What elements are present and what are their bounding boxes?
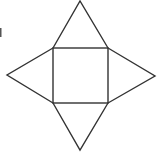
right-triangle-face bbox=[108, 48, 155, 103]
pyramid-net-diagram bbox=[0, 0, 164, 156]
top-triangle-face bbox=[53, 1, 108, 48]
edge-mark bbox=[0, 28, 2, 37]
left-triangle-face bbox=[7, 48, 53, 103]
base-square-face bbox=[53, 48, 108, 103]
bottom-triangle-face bbox=[53, 103, 108, 150]
